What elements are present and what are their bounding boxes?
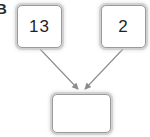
node-result[interactable] bbox=[52, 94, 111, 133]
edge-right-to-result bbox=[85, 49, 123, 89]
node-left-operand-value: 13 bbox=[29, 18, 50, 35]
node-left-operand[interactable]: 13 bbox=[17, 5, 62, 48]
node-right-operand[interactable]: 2 bbox=[101, 5, 146, 48]
edge-left-to-result bbox=[40, 49, 78, 89]
node-right-operand-value: 2 bbox=[118, 18, 128, 35]
diagram-canvas: B 13 2 bbox=[0, 0, 150, 137]
